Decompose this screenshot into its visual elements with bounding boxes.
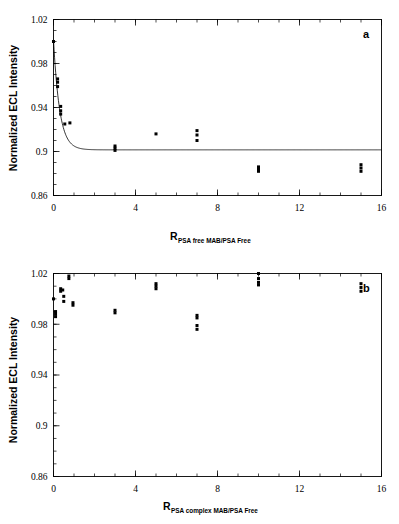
- data-point: [257, 283, 260, 286]
- data-point: [62, 300, 65, 303]
- data-point: [54, 315, 57, 318]
- data-point: [360, 163, 363, 166]
- panel-a-yticks: [54, 20, 60, 196]
- y-tick-label: 1.02: [31, 15, 48, 25]
- data-point: [71, 304, 74, 307]
- fit-curve-line: [54, 40, 382, 150]
- x-axis-title-main: R: [163, 500, 171, 512]
- data-point: [52, 40, 55, 43]
- data-point: [114, 311, 117, 314]
- x-tick-label: 0: [51, 203, 56, 213]
- panel-b-yticks: [54, 274, 60, 477]
- data-point: [360, 167, 363, 170]
- data-point: [257, 272, 260, 275]
- data-point: [56, 81, 59, 84]
- data-point: [155, 132, 158, 135]
- panel-a-xticks: [54, 20, 382, 196]
- x-tick-label: 8: [215, 203, 220, 213]
- panel-b-xticklabels: 0481216: [51, 484, 386, 494]
- data-point: [196, 129, 199, 132]
- data-point: [257, 170, 260, 173]
- panel-letter-a: a: [363, 28, 370, 40]
- panel-a: 0481216 0.860.90.940.981.02 Normalized E…: [0, 0, 399, 262]
- y-tick-label: 0.98: [31, 320, 48, 330]
- data-point: [196, 139, 199, 142]
- x-tick-label: 0: [51, 484, 56, 494]
- y-axis-title: Normalized ECL Intensity: [7, 317, 19, 444]
- data-point: [196, 324, 199, 327]
- y-axis-title: Normalized ECL Intensity: [7, 45, 19, 172]
- plot-frame: [54, 20, 382, 196]
- data-point: [59, 105, 62, 108]
- data-point: [59, 113, 62, 116]
- data-point: [56, 85, 59, 88]
- data-point: [155, 287, 158, 290]
- panel-a-xticklabels: 0481216: [51, 203, 386, 213]
- y-tick-label: 0.9: [36, 421, 48, 431]
- x-axis-title-subscript: PSA complex MAB/PSA Free: [171, 507, 258, 515]
- panel-a-plot: 0481216 0.860.90.940.981.02 Normalized E…: [0, 0, 399, 262]
- data-point: [68, 121, 71, 124]
- x-axis-title-main: R: [170, 230, 178, 242]
- y-tick-label: 1.02: [31, 269, 48, 279]
- panel-a-fitcurve: [54, 40, 382, 150]
- y-tick-label: 0.86: [31, 472, 48, 482]
- y-tick-label: 0.86: [31, 191, 48, 201]
- panel-a-yticklabels: 0.860.90.940.981.02: [31, 15, 48, 201]
- panel-b-datapoints: [52, 272, 363, 331]
- data-point: [52, 297, 55, 300]
- figure-container: 0481216 0.860.90.940.981.02 Normalized E…: [0, 0, 399, 524]
- y-tick-label: 0.98: [31, 59, 48, 69]
- data-point: [114, 149, 117, 152]
- x-tick-label: 16: [377, 203, 387, 213]
- x-tick-label: 4: [133, 484, 138, 494]
- y-tick-label: 0.94: [31, 103, 48, 113]
- data-point: [67, 277, 70, 280]
- plot-frame: [54, 274, 382, 477]
- panel-b-yticklabels: 0.860.90.940.981.02: [31, 269, 48, 482]
- data-point: [63, 123, 66, 126]
- data-point: [62, 295, 65, 298]
- data-point: [59, 109, 62, 112]
- data-point: [56, 77, 59, 80]
- x-tick-label: 12: [295, 203, 305, 213]
- data-point: [196, 328, 199, 331]
- x-tick-label: 8: [215, 484, 220, 494]
- x-tick-label: 4: [133, 203, 138, 213]
- y-tick-label: 0.94: [31, 370, 48, 380]
- panel-b-xticks: [54, 274, 382, 477]
- data-point: [61, 288, 64, 291]
- data-point: [257, 277, 260, 280]
- data-point: [196, 316, 199, 319]
- x-tick-label: 16: [377, 484, 387, 494]
- panel-b-frame-group: [54, 274, 382, 477]
- y-tick-label: 0.9: [36, 147, 48, 157]
- x-axis-title-subscript: PSA free MAB/PSA Free: [178, 237, 251, 244]
- x-tick-label: 12: [295, 484, 305, 494]
- data-point: [360, 170, 363, 173]
- panel-letter-b: b: [363, 282, 370, 294]
- panel-a-datapoints: [52, 40, 363, 173]
- data-point: [196, 134, 199, 137]
- panel-b: 0481216 0.860.90.940.981.02 Normalized E…: [0, 262, 399, 524]
- panel-b-plot: 0481216 0.860.90.940.981.02 Normalized E…: [0, 262, 399, 524]
- panel-a-frame-group: [54, 20, 382, 196]
